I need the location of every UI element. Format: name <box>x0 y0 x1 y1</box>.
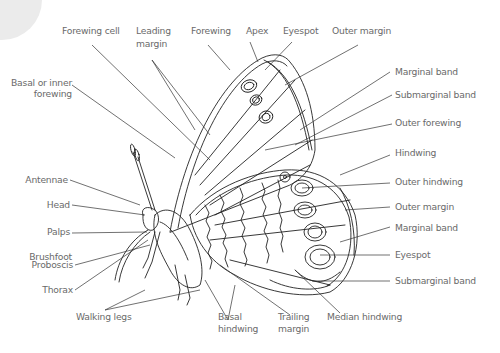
label-hindwing: Hindwing <box>395 147 436 158</box>
label-trailing-margin-2: margin <box>278 323 309 334</box>
label-walking-legs: Walking legs <box>76 311 132 322</box>
label-proboscis: Proboscis <box>0 259 73 270</box>
label-outer-margin-right: Outer margin <box>395 201 454 212</box>
label-head: Head <box>0 199 70 210</box>
label-forewing-cell: Forewing cell <box>62 25 120 36</box>
label-antennae: Antennae <box>0 174 68 185</box>
head <box>142 208 158 231</box>
label-basal-hindwing-1: Basal <box>218 311 242 322</box>
label-median-hindwing: Median hindwing <box>327 311 402 322</box>
hindwing-outline <box>190 170 357 295</box>
forewing-eyespot-3 <box>257 109 274 125</box>
label-basal-hindwing-2: hindwing <box>218 323 258 334</box>
label-eyespot-top: Eyespot <box>283 25 318 36</box>
label-forewing: Forewing <box>191 25 231 36</box>
label-trailing-margin-1: Trailing <box>278 311 309 322</box>
label-basal-forewing-2: forewing <box>10 88 72 99</box>
label-outer-margin-top: Outer margin <box>332 25 391 36</box>
label-leading-margin-2: margin <box>136 38 167 49</box>
thorax <box>154 210 202 288</box>
label-outer-forewing: Outer forewing <box>395 117 461 128</box>
label-submarginal-band-right: Submarginal band <box>395 275 476 286</box>
label-eyespot-right: Eyespot <box>395 249 430 260</box>
label-thorax: Thorax <box>0 284 73 295</box>
antennae <box>133 152 152 210</box>
label-apex: Apex <box>246 25 268 36</box>
butterfly-anatomy-diagram: Forewing cell Leading margin Forewing Ap… <box>0 0 500 353</box>
label-marginal-band-top: Marginal band <box>395 66 458 77</box>
label-submarginal-band-top: Submarginal band <box>395 89 476 100</box>
label-marginal-band-right: Marginal band <box>395 222 458 233</box>
label-outer-hindwing: Outer hindwing <box>395 176 463 187</box>
label-palps: Palps <box>0 226 70 237</box>
label-basal-forewing-1: Basal or inner <box>10 77 72 88</box>
label-leading-margin-1: Leading <box>136 25 171 36</box>
